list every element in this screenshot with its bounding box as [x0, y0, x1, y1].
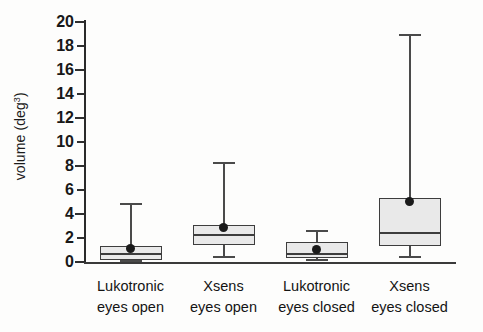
y-axis-tick-label: 20 — [56, 14, 74, 30]
y-axis-label-paren: ) — [12, 92, 28, 97]
x-axis-category-line2: eyes open — [190, 297, 257, 318]
x-axis-category-label: Xsenseyes closed — [371, 276, 448, 318]
y-axis-tick-mark — [75, 213, 84, 215]
mean-marker — [312, 245, 321, 254]
x-axis-category-line2: eyes closed — [278, 297, 355, 318]
y-axis-tick-label: 16 — [56, 62, 74, 78]
x-axis-category-label: Lukotroniceyes closed — [278, 276, 355, 318]
y-axis-tick-mark — [77, 93, 84, 95]
mean-marker — [219, 223, 228, 232]
x-axis-category-label: Xsenseyes open — [190, 276, 257, 318]
y-axis-label-container: volume (deg3) — [0, 0, 40, 272]
y-axis-tick-labels: 02468101214161820 — [38, 22, 78, 262]
y-axis-tick-label: 10 — [56, 134, 74, 150]
whisker-cap-upper — [399, 34, 421, 36]
boxplot-figure: volume (deg3) 02468101214161820 Lukotron… — [0, 0, 483, 332]
x-axis-category-line1: Xsens — [203, 278, 243, 294]
y-axis-label-text: volume (deg — [12, 102, 28, 180]
y-axis-tick-label: 2 — [65, 230, 74, 246]
plot-area — [84, 22, 456, 262]
whisker-cap-upper — [306, 230, 328, 232]
y-axis-tick-mark — [75, 69, 84, 71]
y-axis-tick-label: 14 — [56, 86, 74, 102]
y-axis-line — [84, 20, 86, 264]
x-axis-category-line2: eyes closed — [371, 297, 448, 318]
whisker-cap-lower — [399, 256, 421, 258]
y-axis-tick-mark — [75, 117, 84, 119]
y-axis-tick-mark — [77, 45, 84, 47]
median-line — [193, 234, 255, 236]
x-axis-category-line2: eyes open — [97, 297, 164, 318]
x-axis-category-line1: Lukotronic — [283, 278, 350, 294]
x-axis-category-labels: Lukotroniceyes openXsenseyes openLukotro… — [84, 272, 456, 328]
whisker-cap-upper — [120, 203, 142, 205]
mean-marker — [405, 197, 414, 206]
mean-marker — [126, 244, 135, 253]
y-axis-tick-mark — [77, 237, 84, 239]
median-line — [379, 232, 441, 234]
y-axis-tick-label: 8 — [65, 158, 74, 174]
y-axis-tick-label: 6 — [65, 182, 74, 198]
y-axis-tick-mark — [77, 141, 84, 143]
whisker-cap-lower — [306, 259, 328, 261]
median-line — [100, 253, 162, 255]
y-axis-label-superscript: 3 — [12, 97, 22, 102]
y-axis-tick-mark — [75, 165, 84, 167]
y-axis-tick-mark — [77, 189, 84, 191]
whisker-cap-lower — [213, 256, 235, 258]
whisker-cap-upper — [213, 162, 235, 164]
y-axis-tick-label: 0 — [65, 254, 74, 270]
whisker-cap-lower — [120, 260, 142, 262]
y-axis-tick-mark — [75, 261, 84, 263]
y-axis-tick-mark — [75, 21, 84, 23]
y-axis-label: volume (deg3) — [12, 92, 29, 180]
x-axis-line — [84, 262, 456, 264]
y-axis-tick-label: 18 — [56, 38, 74, 54]
y-axis-tick-label: 4 — [65, 206, 74, 222]
x-axis-category-line1: Lukotronic — [97, 278, 164, 294]
y-axis-tick-label: 12 — [56, 110, 74, 126]
x-axis-category-label: Lukotroniceyes open — [97, 276, 164, 318]
x-axis-category-line1: Xsens — [389, 278, 429, 294]
